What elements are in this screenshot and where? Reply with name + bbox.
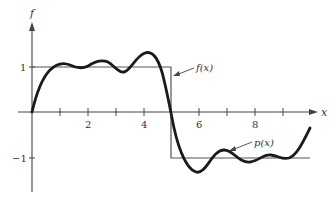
y-axis-arrow-icon: [29, 22, 35, 31]
y-tick-label-neg1: −1: [12, 153, 27, 164]
x-axis-arrow-icon: [309, 109, 318, 115]
f-annot-arrow-icon: [173, 71, 180, 76]
x-tick-label-8: 8: [252, 119, 258, 130]
x-tick-label-4: 4: [141, 119, 147, 130]
x-tick-label-2: 2: [85, 119, 91, 130]
x-tick-label-6: 6: [196, 119, 202, 130]
y-tick-label-1: 1: [20, 62, 26, 73]
axes: [18, 26, 312, 192]
chart: 2 4 6 8 1 −1 f x f(x) p(x): [0, 0, 336, 199]
y-axis-label: f: [29, 7, 36, 20]
x-axis-label: x: [321, 106, 328, 119]
p-annot-arrow-icon: [229, 146, 236, 151]
f-annotation: f(x): [195, 62, 213, 73]
p-annotation: p(x): [254, 137, 274, 148]
